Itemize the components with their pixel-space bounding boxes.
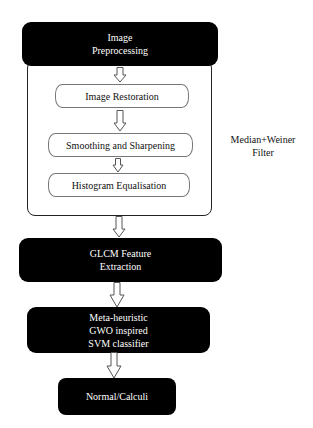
node-label-line: GWO inspired: [88, 324, 148, 337]
node-gwo-svm-classifier: Meta-heuristic GWO inspired SVM classifi…: [27, 307, 210, 353]
annotation-line: Median+Weiner: [222, 133, 304, 146]
arrow-down-icon: [113, 110, 127, 132]
node-label-line: Image: [92, 31, 148, 44]
node-label-line: Extraction: [90, 260, 151, 273]
arrow-down-icon: [109, 282, 125, 308]
annotation-line: Filter: [222, 146, 304, 159]
node-label-line: Preprocessing: [92, 44, 148, 57]
arrow-down-icon: [112, 216, 126, 238]
node-smoothing-sharpening: Smoothing and Sharpening: [48, 133, 193, 157]
node-label-line: GLCM Feature: [90, 247, 151, 260]
node-label: Histogram Equalisation: [72, 180, 167, 191]
node-image-preprocessing: Image Preprocessing: [22, 22, 218, 66]
arrow-down-icon: [113, 67, 127, 83]
filter-annotation: Median+Weiner Filter: [222, 133, 304, 159]
node-label: Image Restoration: [85, 91, 159, 102]
node-label: Normal/Calculi: [86, 390, 148, 403]
node-normal-calculi: Normal/Calculi: [58, 378, 176, 415]
node-glcm-feature-extraction: GLCM Feature Extraction: [19, 238, 222, 282]
node-image-restoration: Image Restoration: [55, 84, 189, 108]
node-label-line: SVM classifier: [88, 337, 148, 350]
arrow-down-icon: [106, 352, 122, 379]
node-label: Smoothing and Sharpening: [66, 140, 175, 151]
node-label-line: Meta-heuristic: [88, 311, 148, 324]
node-histogram-equalisation: Histogram Equalisation: [48, 173, 190, 197]
arrow-down-icon: [112, 158, 124, 173]
